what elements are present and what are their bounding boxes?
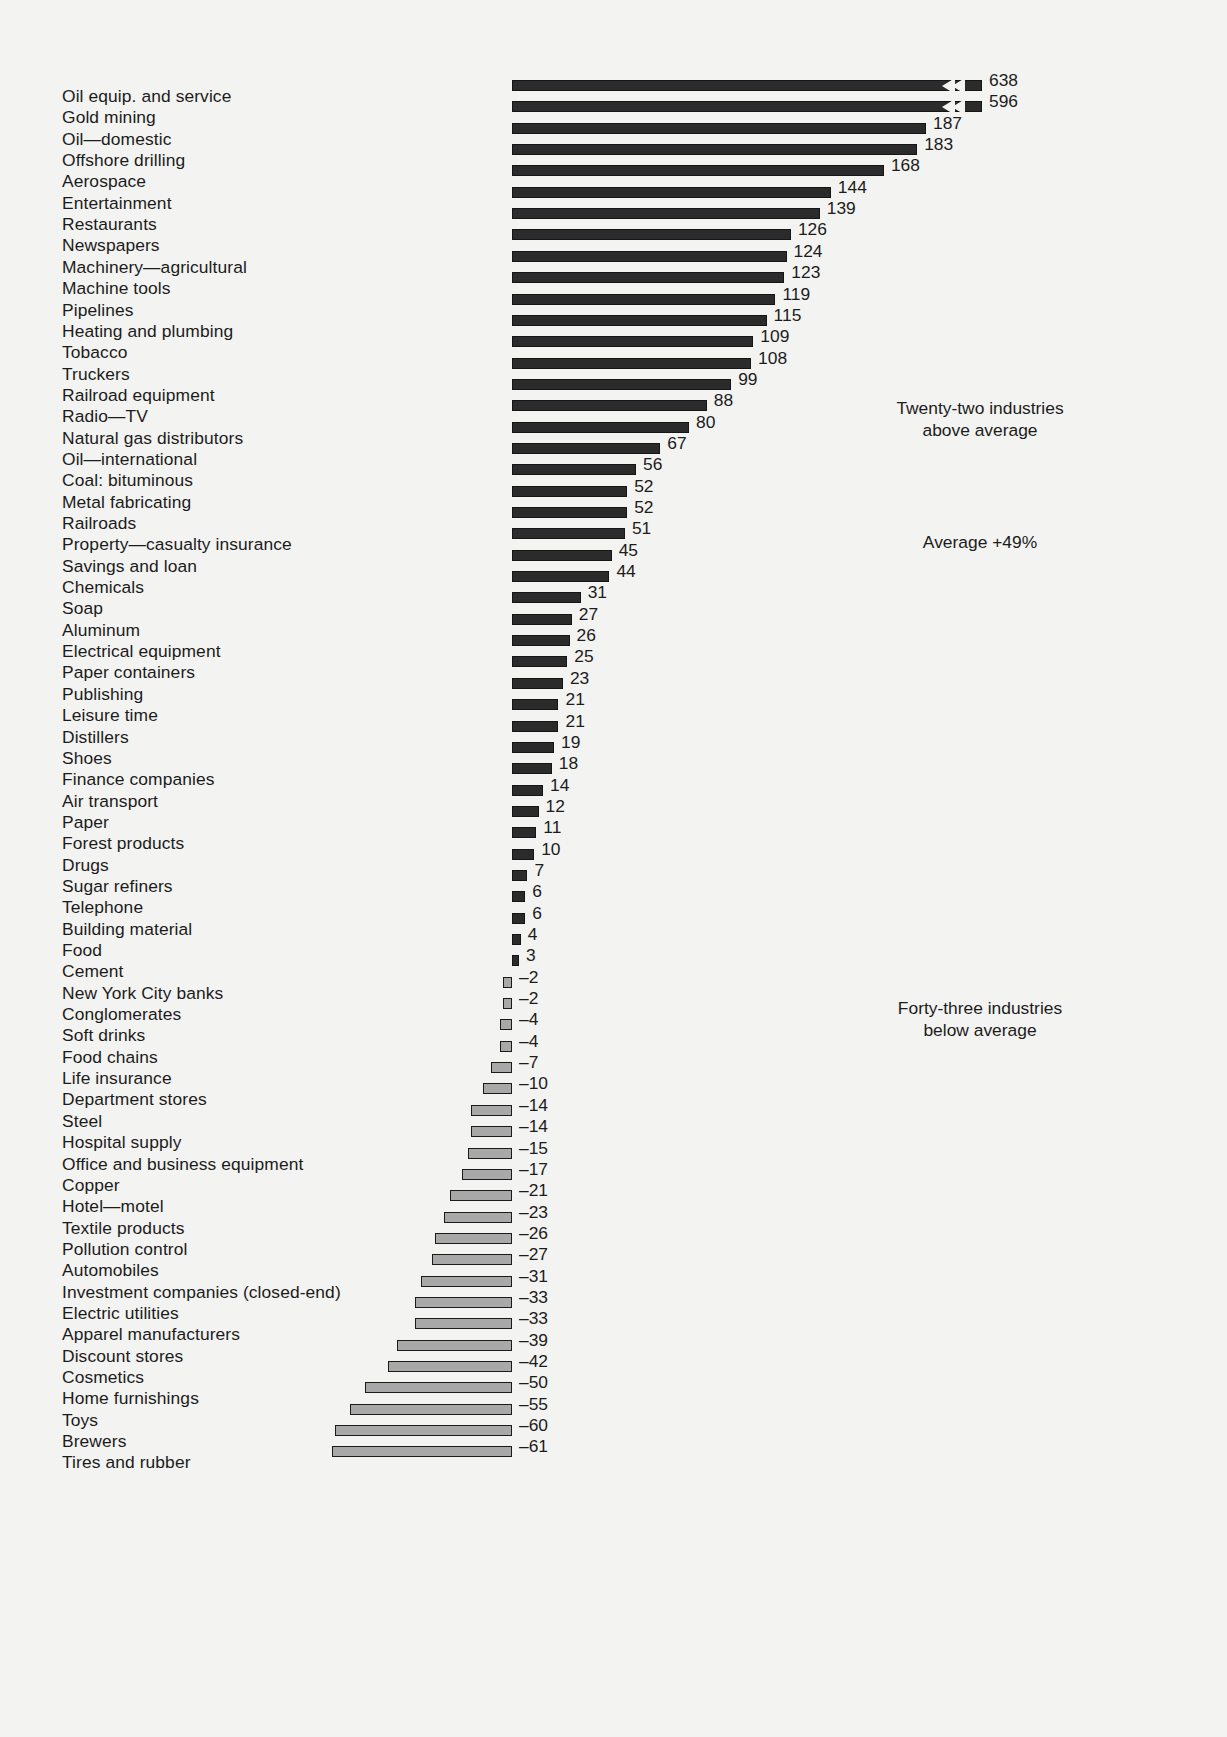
bar-value-label: 67 xyxy=(667,433,686,454)
bar xyxy=(332,1446,512,1457)
chart-row: Brewers–60 xyxy=(0,1431,1227,1452)
category-label: Paper containers xyxy=(62,662,195,683)
chart-row: Tires and rubber–61 xyxy=(0,1452,1227,1473)
bar xyxy=(512,187,831,198)
bar-value-label: 56 xyxy=(643,454,662,475)
bar xyxy=(388,1361,512,1372)
bar xyxy=(350,1404,512,1415)
category-label: Paper xyxy=(62,812,109,833)
bar xyxy=(512,827,536,838)
category-label: Office and business equipment xyxy=(62,1154,303,1175)
chart-row: Distillers21 xyxy=(0,727,1227,748)
bar xyxy=(444,1212,512,1223)
category-label: Life insurance xyxy=(62,1068,172,1089)
bar-value-label: 26 xyxy=(577,625,596,646)
bar xyxy=(512,934,521,945)
bar xyxy=(512,763,552,774)
category-label: Natural gas distributors xyxy=(62,428,243,449)
bar xyxy=(512,336,753,347)
bar xyxy=(468,1148,512,1159)
bar-value-label: –21 xyxy=(519,1180,548,1201)
category-label: Oil—domestic xyxy=(62,129,171,150)
category-label: Food chains xyxy=(62,1047,158,1068)
category-label: Brewers xyxy=(62,1431,126,1452)
bar xyxy=(432,1254,512,1265)
category-label: Oil—international xyxy=(62,449,197,470)
chart-row: Building material6 xyxy=(0,919,1227,940)
category-label: Cement xyxy=(62,961,124,982)
bar xyxy=(512,891,525,902)
industry-performance-bar-chart: Oil equip. and service638Gold mining596O… xyxy=(0,0,1227,1737)
bar-value-label: 25 xyxy=(574,646,593,667)
category-label: Truckers xyxy=(62,364,130,385)
bar xyxy=(512,913,525,924)
annotation-average: Average +49% xyxy=(850,531,1110,553)
category-label: Offshore drilling xyxy=(62,150,185,171)
bar-value-label: –2 xyxy=(519,967,538,988)
chart-row: Pollution control–26 xyxy=(0,1239,1227,1260)
category-label: Discount stores xyxy=(62,1346,183,1367)
bar xyxy=(512,272,784,283)
bar xyxy=(512,849,534,860)
bar-value-label: 31 xyxy=(588,582,607,603)
bar-value-label: 115 xyxy=(774,305,802,326)
bar xyxy=(512,208,820,219)
chart-row: Air transport14 xyxy=(0,791,1227,812)
bar xyxy=(512,699,558,710)
category-label: Chemicals xyxy=(62,577,144,598)
category-label: Savings and loan xyxy=(62,556,197,577)
bar-value-label: –42 xyxy=(519,1351,548,1372)
bar xyxy=(415,1297,512,1308)
bar xyxy=(512,486,627,497)
bar-value-label: 52 xyxy=(634,497,653,518)
chart-row: Hotel—motel–21 xyxy=(0,1196,1227,1217)
chart-row: Aluminum27 xyxy=(0,620,1227,641)
category-label: Conglomerates xyxy=(62,1004,181,1025)
category-label: Textile products xyxy=(62,1218,184,1239)
category-label: Gold mining xyxy=(62,107,156,128)
bar-value-label: 45 xyxy=(619,540,638,561)
bar-value-label: 44 xyxy=(616,561,635,582)
chart-row: Electrical equipment26 xyxy=(0,641,1227,662)
chart-row: Leisure time21 xyxy=(0,705,1227,726)
bar xyxy=(512,379,731,390)
bar-value-label: –14 xyxy=(519,1095,548,1116)
bar xyxy=(483,1083,513,1094)
bar-value-label: –26 xyxy=(519,1223,548,1244)
chart-row: Food chains–4 xyxy=(0,1047,1227,1068)
bar-value-label: 21 xyxy=(565,689,584,710)
bar-value-label: –39 xyxy=(519,1330,548,1351)
bar xyxy=(503,977,512,988)
category-label: Entertainment xyxy=(62,193,172,214)
bar-value-label: –17 xyxy=(519,1159,548,1180)
bar xyxy=(512,165,884,176)
category-label: Soft drinks xyxy=(62,1025,145,1046)
category-label: Automobiles xyxy=(62,1260,159,1281)
chart-row: Discount stores–39 xyxy=(0,1346,1227,1367)
bar xyxy=(512,614,572,625)
bar xyxy=(512,123,926,134)
bar xyxy=(512,742,554,753)
chart-row: Life insurance–7 xyxy=(0,1068,1227,1089)
category-label: Machine tools xyxy=(62,278,171,299)
bar-value-label: 80 xyxy=(696,412,715,433)
category-label: Toys xyxy=(62,1410,98,1431)
category-label: Drugs xyxy=(62,855,109,876)
bar xyxy=(512,592,581,603)
bar-value-label: 109 xyxy=(760,326,789,347)
category-label: Pollution control xyxy=(62,1239,187,1260)
bar-value-label: 11 xyxy=(543,817,561,838)
chart-row: Toys–55 xyxy=(0,1410,1227,1431)
bar-value-label: –23 xyxy=(519,1202,548,1223)
bar xyxy=(512,101,982,112)
bar-value-label: 10 xyxy=(541,839,560,860)
category-label: New York City banks xyxy=(62,983,223,1004)
bar xyxy=(335,1425,512,1436)
bar xyxy=(435,1233,512,1244)
bar-value-label: 23 xyxy=(570,668,589,689)
bar-value-label: –15 xyxy=(519,1138,548,1159)
chart-row: Drugs10 xyxy=(0,855,1227,876)
bar xyxy=(500,1041,512,1052)
category-label: Cosmetics xyxy=(62,1367,144,1388)
category-label: Food xyxy=(62,940,102,961)
